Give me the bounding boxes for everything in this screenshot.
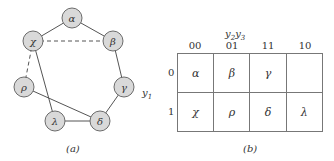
svg-text:α: α	[69, 13, 76, 24]
node-rho: ρ	[14, 77, 34, 97]
edge-chi-lambda	[33, 41, 55, 121]
row-header-0: 0	[168, 67, 174, 78]
node-gamma: γ	[114, 77, 134, 97]
row-variable-label: y1	[142, 87, 152, 101]
kmap-cell: γ	[250, 54, 286, 93]
column-header-01: 01	[214, 40, 250, 51]
kmap-cell: δ	[250, 93, 286, 132]
kmap-cell	[286, 54, 322, 93]
svg-text:γ: γ	[121, 82, 127, 93]
column-header-10: 10	[287, 40, 323, 51]
kmap-row-0: α β γ	[178, 54, 323, 93]
node-beta: β	[103, 31, 123, 51]
caption-b: (b)	[243, 143, 257, 154]
kmap-cell: α	[178, 54, 214, 93]
svg-text:λ: λ	[51, 116, 58, 127]
kmap-cell: χ	[178, 93, 214, 132]
state-graph: αχβργλδ	[0, 0, 150, 161]
node-chi: χ	[23, 31, 43, 51]
kmap-cell: ρ	[214, 93, 250, 132]
column-header-00: 00	[177, 40, 213, 51]
svg-text:ρ: ρ	[20, 82, 27, 93]
kmap-cell: λ	[286, 93, 322, 132]
column-header-11: 11	[250, 40, 286, 51]
row-header-1: 1	[168, 106, 174, 117]
svg-text:χ: χ	[29, 36, 37, 47]
kmap-row-1: χ ρ δ λ	[178, 93, 323, 132]
kmap-cell: β	[214, 54, 250, 93]
caption-a: (a)	[66, 143, 80, 154]
node-alpha: α	[62, 8, 82, 28]
svg-text:δ: δ	[97, 116, 103, 127]
svg-text:β: β	[109, 36, 116, 47]
karnaugh-map: α β γ χ ρ δ λ	[177, 53, 323, 132]
node-delta: δ	[90, 111, 110, 131]
node-lambda: λ	[45, 111, 65, 131]
